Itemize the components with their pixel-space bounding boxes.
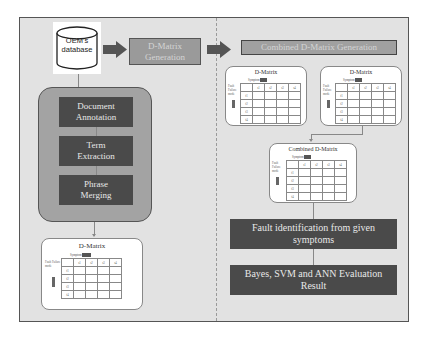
oem-database: OEM's database [53,22,101,74]
symptom-header: Symptom xxx [70,253,91,257]
fault-identification-box: Fault identification from givensymptoms [230,219,397,249]
term-extraction-step: TermExtraction [59,136,133,166]
dmatrix-table: s1s2s3s4 f1 f2 f3 f4 [335,83,396,124]
symptom-header: Symptom xx [292,155,311,159]
database-label: OEM's database [53,36,101,54]
connector-line [78,74,79,87]
dmatrix-table: s1s2s3s4 f1 f2 f3 f4 [286,160,347,201]
dmatrix-card: D-Matrix Symptom xx Fault Failure mode s… [225,66,307,126]
down-arrow-icon [276,177,279,185]
connector-line [96,166,97,175]
right-arrow-icon [207,41,231,58]
connector-line [96,127,97,136]
document-annotation-step: DocumentAnnotation [59,97,133,127]
dmatrix-table: s1s2s3s4 f1 f2 f3 f4 [240,83,301,124]
symptom-header: Symptom xx [248,78,267,82]
arrow-tip-icon [309,139,313,142]
phrase-merging-step: PhraseMerging [59,175,133,205]
right-arrow-icon [103,41,127,58]
connector-line [313,249,314,265]
evaluation-result-box: Bayes, SVM and ANN EvaluationResult [230,265,397,295]
connector-line [313,203,314,219]
combined-dmatrix-generation-box: Combined D-Matrix Generation [241,40,397,55]
dmatrix-table: s1s2s3s4 f1 f2 f3 f4 [61,258,122,299]
combined-dmatrix-card: Combined D-Matrix Symptom xx Fault Failu… [269,143,357,203]
connector-line [311,134,363,135]
dmatrix-generation-box: D-Matrix Generation [129,38,201,65]
dmatrix-card: D-Matrix Symptom xxx Fault Failure mode … [41,238,143,310]
dmatrix-card: D-Matrix Symptom xx Fault Failure mode s… [320,66,402,126]
connector-line [362,126,363,134]
down-arrow-icon [327,100,330,108]
section-divider [216,18,217,321]
down-arrow-icon [52,277,55,287]
arrow-tip-icon [92,234,96,237]
down-arrow-icon [232,100,235,108]
symptom-header: Symptom xx [343,78,362,82]
